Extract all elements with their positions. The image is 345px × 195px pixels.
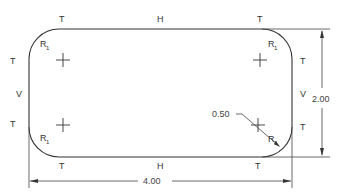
svg-text:1: 1 [46,139,50,145]
horizontal-label: H [157,161,164,171]
tangent-label: T [300,56,306,66]
tangent-label: T [10,56,16,66]
tangent-label: T [59,161,65,171]
height-dimension-value: 2.00 [312,94,330,104]
arrowhead-right-icon [283,179,291,183]
radius-label: R 1 [268,134,278,146]
width-dimension: 4.00 [30,176,291,186]
tangent-label: T [59,14,65,24]
vertical-label: V [300,89,306,99]
radius-label: R 1 [268,39,278,51]
arrowhead-down-icon [320,148,324,156]
tangent-label: T [300,122,306,132]
svg-text:1: 1 [46,45,50,51]
center-marks [56,53,267,132]
height-dimension: 2.00 [312,30,330,156]
center-mark-icon [56,118,70,132]
center-mark-icon [251,118,265,132]
tangent-label: T [10,119,16,129]
arrowhead-left-icon [30,179,38,183]
width-dimension-value: 4.00 [143,176,161,186]
tangent-label: T [257,14,263,24]
radius-callout-value: 0.50 [212,109,230,119]
part-outline [29,29,292,157]
arrowhead-up-icon [320,30,324,38]
center-mark-icon [56,53,70,67]
horizontal-label: H [157,14,164,24]
svg-text:1: 1 [274,45,278,51]
radius-label: R 1 [40,133,50,145]
radius-label: R 1 [40,39,50,51]
tangent-label: T [255,161,261,171]
center-mark-icon [253,53,267,67]
technical-drawing: 2.00 4.00 0.50 T T T T T T T T H H V V R… [0,0,345,195]
vertical-label: V [16,89,22,99]
